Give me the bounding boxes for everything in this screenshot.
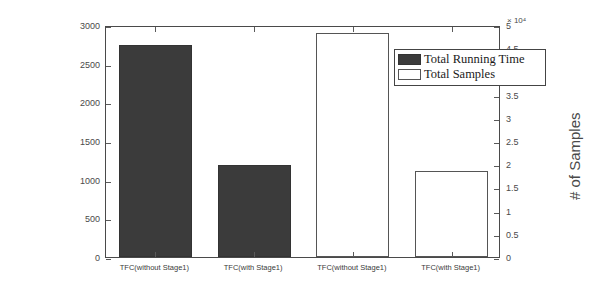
right-tick-label: 0 <box>506 253 546 263</box>
right-tick-mark <box>494 27 499 28</box>
left-tick-mark <box>106 220 111 221</box>
left-tick-mark <box>106 66 111 67</box>
x-tick-label: TFC(without Stage1) <box>120 263 189 272</box>
x-tick-mark <box>254 27 255 32</box>
legend-label-total-running-time: Total Running Time <box>424 53 525 66</box>
x-tick-mark <box>452 27 453 32</box>
legend-label-total-samples: Total Samples <box>424 68 495 81</box>
right-tick-mark <box>494 213 499 214</box>
right-tick-label: 3.5 <box>506 91 546 101</box>
x-tick-mark <box>155 252 156 257</box>
right-tick-label: 2.5 <box>506 137 546 147</box>
right-tick-label: 5 <box>506 21 546 31</box>
bar-4 <box>415 171 488 257</box>
right-tick-mark <box>494 166 499 167</box>
right-tick-mark <box>494 189 499 190</box>
left-tick-mark <box>106 27 111 28</box>
x-tick-label: TFC(without Stage1) <box>317 263 386 272</box>
right-tick-label: 0.5 <box>506 230 546 240</box>
left-tick-mark <box>106 259 111 260</box>
legend-swatch-hollow-icon <box>398 69 421 80</box>
legend-item-total-running-time: Total Running Time <box>398 52 542 67</box>
x-tick-mark <box>254 252 255 257</box>
right-tick-mark <box>494 120 499 121</box>
right-tick-label: 1 <box>506 207 546 217</box>
right-tick-mark <box>494 97 499 98</box>
right-tick-label: 3 <box>506 114 546 124</box>
right-tick-mark <box>494 143 499 144</box>
bar-1 <box>119 45 192 257</box>
chart-figure: Time Cost(s) # of Samples × 10⁴ TFC(with… <box>0 0 604 293</box>
x-tick-label: TFC(with Stage1) <box>224 263 283 272</box>
right-tick-mark <box>494 236 499 237</box>
bar-2 <box>218 165 291 257</box>
bar-3 <box>316 33 389 257</box>
left-tick-label: 3000 <box>64 21 100 31</box>
chart-legend: Total Running Time Total Samples <box>394 49 546 86</box>
left-tick-mark <box>106 182 111 183</box>
left-tick-label: 2000 <box>64 98 100 108</box>
left-tick-label: 0 <box>64 253 100 263</box>
x-tick-label: TFC(with Stage1) <box>421 263 480 272</box>
x-tick-mark <box>452 252 453 257</box>
x-tick-mark <box>353 27 354 32</box>
right-tick-label: 2 <box>506 160 546 170</box>
left-tick-mark <box>106 104 111 105</box>
left-tick-mark <box>106 143 111 144</box>
x-tick-mark <box>353 252 354 257</box>
right-tick-mark <box>494 259 499 260</box>
left-tick-label: 1500 <box>64 137 100 147</box>
left-tick-label: 1000 <box>64 176 100 186</box>
legend-swatch-filled-icon <box>398 54 421 65</box>
left-tick-label: 500 <box>64 214 100 224</box>
legend-item-total-samples: Total Samples <box>398 67 542 82</box>
right-axis-title: # of Samples <box>566 112 583 200</box>
right-tick-label: 1.5 <box>506 183 546 193</box>
left-tick-label: 2500 <box>64 60 100 70</box>
x-tick-mark <box>155 27 156 32</box>
